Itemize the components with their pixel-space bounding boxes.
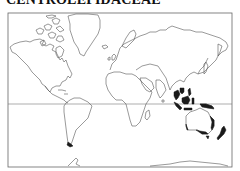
north-america [10,39,72,92]
world-distribution-map [0,0,240,171]
distribution-tierra-del-fuego [67,142,73,147]
distribution-borneo [182,96,190,104]
asia [136,58,208,90]
distribution-se-asia [174,90,180,100]
distribution-australia-east [210,116,214,130]
south-america [64,98,92,146]
distribution-new-zealand [217,126,226,140]
distribution-new-guinea [200,104,214,109]
australia [186,108,214,134]
distribution-australia-sw [186,124,188,130]
antarctica [68,158,80,166]
distribution-sumatra-java [174,102,182,110]
central-america [45,86,68,103]
distribution-tasmania [206,136,209,139]
map-border [8,13,232,167]
distribution-australia-south [196,130,208,134]
distribution-areas [67,88,226,147]
greenland [68,14,100,56]
europe [110,26,228,74]
land-outlines [10,14,228,166]
india [156,80,166,98]
